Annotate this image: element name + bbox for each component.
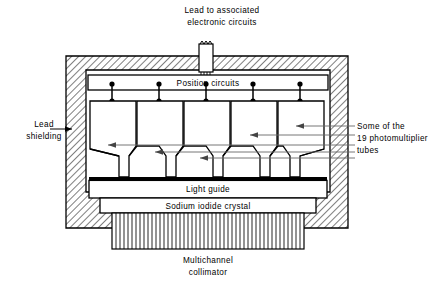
label-light-guide: Light guide: [186, 185, 230, 194]
label-collimator-line1: Multichannel: [183, 256, 233, 265]
label-lead-to-circuits-line1: Lead to associated: [184, 6, 259, 15]
diagram-canvas: Lead to associated electronic circuits P…: [0, 0, 445, 283]
label-collimator-line2: collimator: [189, 268, 228, 277]
label-lead-to-circuits-line2: electronic circuits: [187, 18, 256, 27]
lead-to-electronics-connector: [199, 41, 213, 76]
collimator-channels: [116, 213, 300, 249]
label-position-circuits: Position circuits: [177, 79, 240, 88]
label-photomultiplier-line1: Some of the: [357, 122, 405, 131]
label-lead-shielding-line1: Lead: [34, 120, 54, 129]
label-sodium-iodide-crystal: Sodium iodide crystal: [165, 202, 250, 211]
label-lead-shielding-line2: shielding: [26, 132, 62, 141]
label-photomultiplier-line2: 19 photomultiplier: [357, 134, 428, 143]
gamma-camera-diagram: Lead to associated electronic circuits P…: [0, 0, 445, 283]
multichannel-collimator: [112, 213, 304, 249]
label-photomultiplier-line3: tubes: [357, 146, 379, 155]
